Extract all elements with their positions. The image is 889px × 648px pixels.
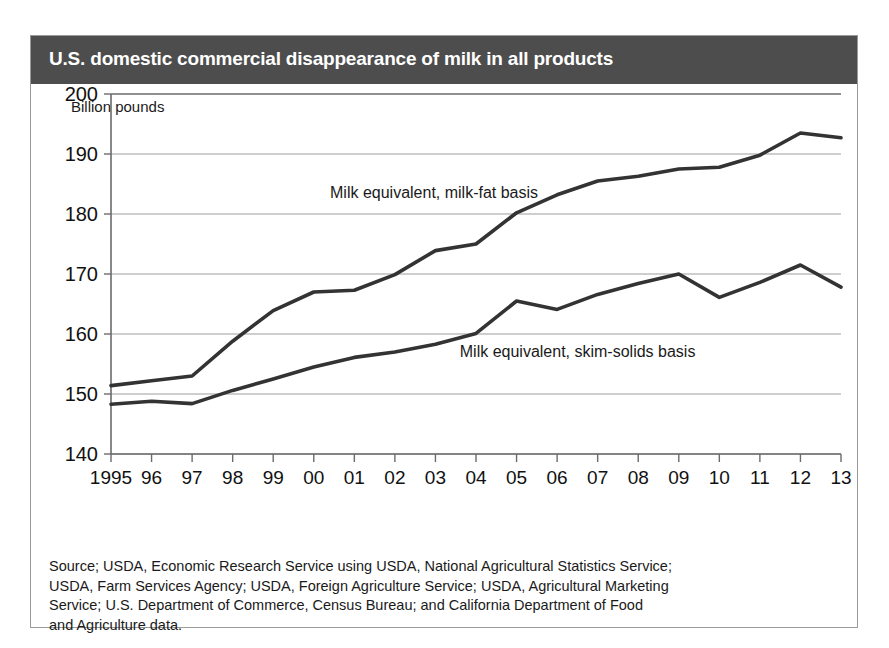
x-tick-label-09: 09	[668, 467, 689, 488]
x-tick-label-12: 12	[790, 467, 811, 488]
x-tick-label-02: 02	[384, 467, 405, 488]
y-tick-label-150: 150	[65, 383, 98, 405]
source-note: Source; USDA, Economic Research Service …	[49, 557, 839, 635]
x-tick-label-05: 05	[506, 467, 527, 488]
y-tick-label-170: 170	[65, 263, 98, 285]
y-tick-label-160: 160	[65, 323, 98, 345]
x-tick-label-97: 97	[182, 467, 203, 488]
x-tick-label-99: 99	[263, 467, 284, 488]
x-tick-label-96: 96	[141, 467, 162, 488]
x-tick-label-1995: 1995	[90, 467, 132, 488]
y-tick-label-200: 200	[65, 84, 98, 105]
x-tick-label-03: 03	[425, 467, 446, 488]
series-label-skim-solids-basis: Milk equivalent, skim-solids basis	[460, 343, 696, 360]
y-tick-label-180: 180	[65, 203, 98, 225]
chart-screenshot: U.S. domestic commercial disappearance o…	[0, 0, 889, 648]
x-tick-label-11: 11	[750, 467, 770, 488]
x-tick-label-01: 01	[344, 467, 365, 488]
source-note-line-2: USDA, Farm Services Agency; USDA, Foreig…	[49, 577, 839, 597]
x-tick-label-00: 00	[303, 467, 324, 488]
line-chart: 1401501601701801902001995969798990001020…	[31, 84, 859, 544]
x-tick-label-07: 07	[587, 467, 608, 488]
source-note-line-1: Source; USDA, Economic Research Service …	[49, 557, 839, 577]
x-tick-label-13: 13	[830, 467, 851, 488]
plot-area: 1401501601701801902001995969798990001020…	[31, 84, 859, 544]
series-label-milk-fat-basis: Milk equivalent, milk-fat basis	[330, 184, 538, 201]
x-tick-label-06: 06	[547, 467, 568, 488]
source-note-line-4: and Agriculture data.	[49, 616, 839, 636]
x-tick-label-98: 98	[222, 467, 243, 488]
chart-title-band: U.S. domestic commercial disappearance o…	[31, 36, 857, 84]
chart-title: U.S. domestic commercial disappearance o…	[49, 48, 613, 70]
source-note-line-3: Service; U.S. Department of Commerce, Ce…	[49, 596, 839, 616]
y-tick-label-190: 190	[65, 143, 98, 165]
x-tick-label-08: 08	[628, 467, 649, 488]
y-tick-label-140: 140	[65, 443, 98, 465]
series-line-skim-solids-basis	[111, 265, 841, 404]
x-tick-label-10: 10	[709, 467, 730, 488]
chart-card: U.S. domestic commercial disappearance o…	[30, 35, 858, 628]
x-tick-label-04: 04	[465, 467, 487, 488]
